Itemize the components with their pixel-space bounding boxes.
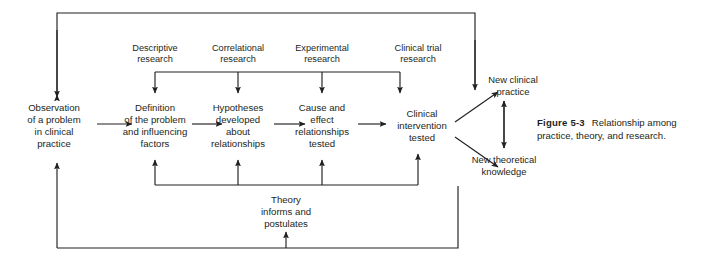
figure-caption: Figure 5-3Relationship among practice, t… bbox=[537, 116, 715, 142]
node-line: about bbox=[226, 126, 250, 137]
node-line: developed bbox=[216, 114, 260, 125]
source-label-experimental-research: Experimental research bbox=[295, 43, 349, 64]
node-line: Hypotheses bbox=[213, 102, 264, 113]
node-observation: Observation of a problem in clinical pra… bbox=[27, 102, 80, 149]
node-new-clinical-practice: New clinical practice bbox=[488, 74, 538, 97]
node-line: and influencing bbox=[123, 126, 188, 137]
figure-caption-label: Figure 5-3 bbox=[537, 117, 585, 128]
node-line: Cause and bbox=[299, 102, 345, 113]
node-line: in clinical bbox=[35, 126, 74, 137]
node-hypotheses: Hypotheses developed about relationships bbox=[211, 102, 265, 149]
theory-bus bbox=[155, 154, 418, 185]
node-line: relationships bbox=[211, 138, 265, 149]
node-line: New clinical bbox=[488, 74, 538, 85]
node-theory: Theory informs and postulates bbox=[261, 194, 311, 229]
node-line: tested bbox=[309, 138, 335, 149]
node-line: effect bbox=[310, 114, 334, 125]
source-label-line2: research bbox=[400, 54, 436, 64]
node-line: tested bbox=[409, 132, 435, 143]
node-line: of the problem bbox=[124, 114, 185, 125]
node-line: practice bbox=[497, 86, 530, 97]
node-line: of a problem bbox=[27, 114, 80, 125]
node-new-theoretical-knowledge: New theoretical knowledge bbox=[472, 154, 537, 177]
node-definition: Definition of the problem and influencin… bbox=[123, 102, 188, 149]
source-label-line1: Clinical trial bbox=[395, 43, 442, 53]
figure-container: Descriptive research Correlational resea… bbox=[0, 0, 719, 278]
node-cause-effect: Cause and effect relationships tested bbox=[295, 102, 349, 149]
node-line: Definition bbox=[135, 102, 175, 113]
node-line: relationships bbox=[295, 126, 349, 137]
source-label-descriptive-research: Descriptive research bbox=[132, 43, 177, 64]
source-label-clinical-trial-research: Clinical trial research bbox=[395, 43, 442, 64]
node-line: knowledge bbox=[482, 166, 527, 177]
node-line: Theory bbox=[271, 194, 301, 205]
node-line: practice bbox=[37, 138, 71, 149]
source-label-line2: research bbox=[220, 54, 256, 64]
node-line: Clinical bbox=[407, 108, 438, 119]
source-label-line2: research bbox=[304, 54, 340, 64]
source-label-line1: Experimental bbox=[295, 43, 349, 53]
research-method-bus bbox=[155, 72, 400, 93]
feedback-loop-bottom bbox=[57, 163, 458, 248]
node-line: factors bbox=[141, 138, 170, 149]
node-line: postulates bbox=[264, 218, 308, 229]
node-line: New theoretical bbox=[472, 154, 537, 165]
node-line: intervention bbox=[397, 120, 447, 131]
node-clinical-intervention: Clinical intervention tested bbox=[397, 108, 447, 143]
source-label-line1: Correlational bbox=[212, 43, 264, 53]
node-line: Observation bbox=[28, 102, 80, 113]
source-label-line2: research bbox=[137, 54, 173, 64]
source-label-correlational-research: Correlational research bbox=[212, 43, 264, 64]
source-label-line1: Descriptive bbox=[132, 43, 177, 53]
node-line: informs and bbox=[261, 206, 311, 217]
